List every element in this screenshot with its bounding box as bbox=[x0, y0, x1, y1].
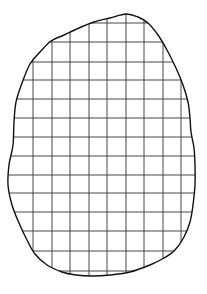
grid-blob-figure bbox=[0, 0, 207, 294]
diagram-canvas bbox=[0, 0, 207, 294]
shape-outline bbox=[8, 14, 195, 276]
